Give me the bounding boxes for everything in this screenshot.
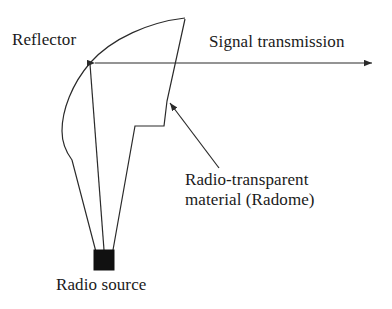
radio-source-label: Radio source [56, 275, 146, 295]
radio-source-square [94, 250, 114, 270]
reflector-dish-outline [62, 18, 185, 252]
reflector-inner-edge [90, 64, 104, 250]
signal-transmission-label: Signal transmission [209, 32, 345, 52]
reflector-label: Reflector [12, 30, 76, 50]
radome-outline [113, 19, 185, 250]
radome-label-line-1: Radio-transparent [185, 170, 385, 190]
radome-label-line-2: material (Radome) [185, 190, 385, 210]
radome-leader-arrow [170, 103, 219, 168]
antenna-diagram: Reflector Signal transmission Radio-tran… [0, 0, 392, 309]
radome-label: Radio-transparent material (Radome) [185, 170, 385, 210]
